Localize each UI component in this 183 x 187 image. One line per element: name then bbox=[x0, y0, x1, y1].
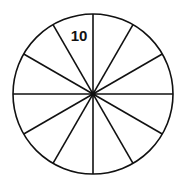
sector-label: 10 bbox=[71, 27, 88, 44]
sector-circle-diagram: 10 bbox=[0, 0, 183, 187]
center-point bbox=[91, 92, 96, 97]
